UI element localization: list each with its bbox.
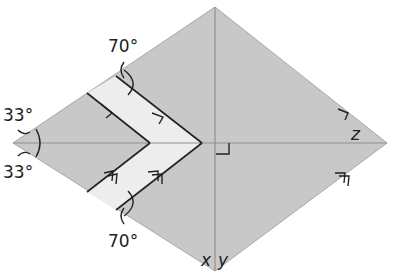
angle-label-chevron-bottom: 70°: [108, 231, 138, 251]
angle-label-chevron-top: 70°: [108, 36, 138, 56]
angle-label-left-upper: 33°: [3, 105, 33, 125]
variable-label-z: z: [350, 124, 361, 144]
geometry-diagram: 33° 33° 70° 70° z x y: [0, 0, 396, 275]
quadrilateral-shape: [13, 7, 387, 271]
variable-label-x: x: [200, 250, 212, 270]
variable-label-y: y: [217, 250, 229, 270]
angle-label-left-lower: 33°: [3, 162, 33, 182]
